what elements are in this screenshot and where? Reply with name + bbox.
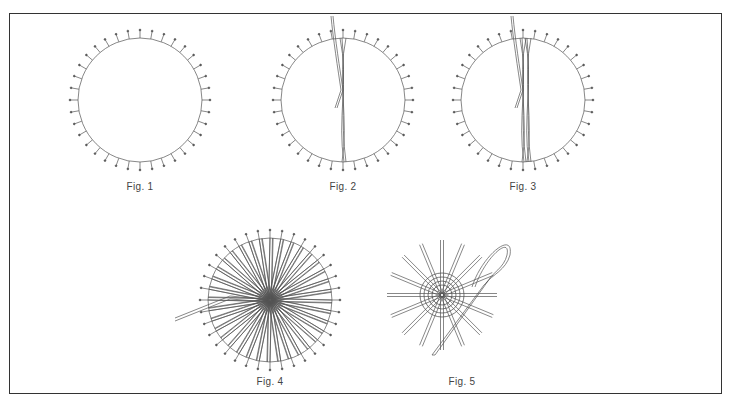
caption-fig-2: Fig. 2 — [330, 181, 357, 192]
caption-fig-5: Fig. 5 — [449, 376, 476, 387]
fig2-drawing — [272, 16, 414, 171]
fig1-drawing — [69, 29, 211, 171]
diagram-canvas — [0, 0, 737, 401]
caption-fig-4: Fig. 4 — [257, 376, 284, 387]
fig4-drawing — [175, 229, 341, 371]
fig5-drawing — [387, 240, 510, 355]
fig3-drawing — [452, 16, 594, 171]
caption-fig-3: Fig. 3 — [510, 181, 537, 192]
caption-fig-1: Fig. 1 — [127, 181, 154, 192]
